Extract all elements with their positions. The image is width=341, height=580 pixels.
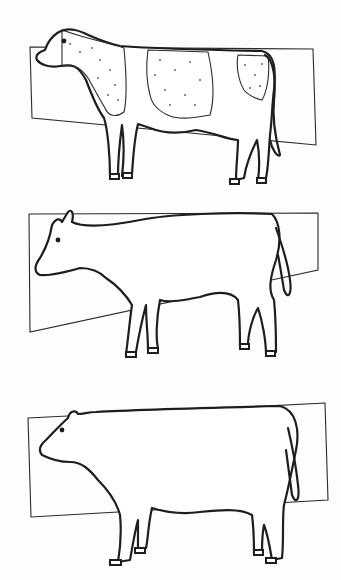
hoof (266, 558, 276, 563)
hoof (123, 173, 132, 178)
cow-eye (62, 39, 67, 44)
cow-outline (36, 211, 280, 354)
hoof (126, 352, 136, 357)
hoof (266, 351, 275, 356)
panel-3-stocky-cow (0, 390, 341, 580)
hoof (110, 560, 121, 565)
hoof (148, 348, 158, 353)
panel-1-spotted-cow (0, 0, 341, 195)
cow-eye (60, 428, 65, 433)
hoof (240, 344, 249, 349)
hoof (110, 174, 119, 179)
cow-outline (40, 406, 298, 562)
hoof (230, 179, 239, 184)
cow-outline (36, 29, 274, 180)
cow-eye (56, 238, 61, 243)
hoof (254, 550, 263, 555)
figure-canvas (0, 0, 341, 580)
hoof (135, 548, 145, 553)
panel-2-horned-cow (0, 190, 341, 380)
hoof (257, 178, 266, 183)
